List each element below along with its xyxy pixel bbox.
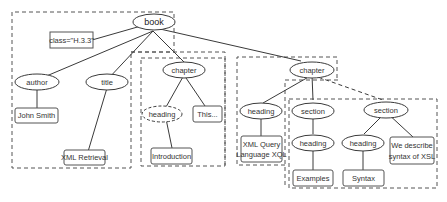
svg-text:section: section — [301, 107, 325, 116]
node-section-1: section — [292, 103, 334, 119]
node-we-describe-syntax: We describe syntax of XSL — [389, 137, 435, 164]
node-section-2: section — [364, 102, 408, 118]
svg-text:Syntax: Syntax — [352, 174, 375, 183]
svg-text:heading: heading — [300, 139, 327, 148]
node-xml-retrieval: XML Retrieval — [61, 150, 108, 165]
svg-text:heading: heading — [248, 107, 275, 116]
node-syntax: Syntax — [343, 170, 384, 186]
svg-text:author: author — [26, 78, 48, 87]
xml-tree-diagram: book class="H.3.3" author title John Smi… — [0, 0, 447, 202]
svg-text:XML Query: XML Query — [243, 140, 281, 149]
node-john-smith: John Smith — [15, 108, 58, 123]
svg-text:section: section — [374, 106, 398, 115]
svg-text:XML Retrieval: XML Retrieval — [61, 153, 108, 162]
node-xml-query-language: XML Query Language XQL — [236, 136, 286, 162]
node-heading-2: heading — [240, 103, 282, 119]
svg-text:chapter: chapter — [171, 66, 197, 75]
node-this: This... — [193, 106, 222, 122]
svg-text:Introduction: Introduction — [152, 152, 191, 161]
svg-text:heading: heading — [149, 110, 176, 119]
node-book: book — [133, 14, 175, 30]
svg-text:heading: heading — [350, 139, 377, 148]
svg-text:title: title — [101, 78, 113, 87]
svg-text:This...: This... — [197, 110, 217, 119]
node-examples: Examples — [293, 170, 333, 186]
node-chapter-2: chapter — [290, 62, 334, 78]
svg-text:syntax of XSL: syntax of XSL — [389, 152, 435, 161]
node-class-attribute: class="H.3.3" — [49, 32, 94, 48]
node-heading-3: heading — [292, 135, 334, 151]
node-author: author — [15, 74, 59, 90]
node-title: title — [86, 74, 128, 90]
svg-text:chapter: chapter — [299, 66, 325, 75]
svg-text:We describe: We describe — [391, 141, 433, 150]
svg-text:Language XQL: Language XQL — [236, 150, 286, 159]
node-chapter-1: chapter — [163, 62, 205, 78]
node-introduction: Introduction — [151, 148, 192, 164]
node-heading-dashed: heading — [142, 106, 182, 122]
svg-text:Examples: Examples — [297, 174, 330, 183]
svg-text:John Smith: John Smith — [18, 111, 56, 120]
svg-text:book: book — [144, 17, 164, 27]
node-heading-4: heading — [342, 135, 384, 151]
svg-text:class="H.3.3": class="H.3.3" — [49, 36, 94, 45]
